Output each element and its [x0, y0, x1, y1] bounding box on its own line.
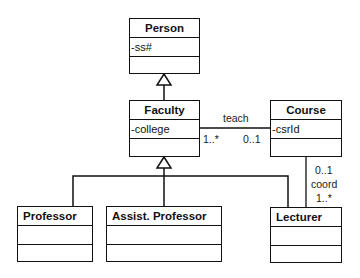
coord-lecturer-multiplicity: 1..*	[316, 192, 332, 204]
class-name: Course	[271, 101, 341, 120]
class-lecturer: Lecturer	[270, 207, 342, 263]
class-attributes	[18, 226, 92, 245]
class-professor: Professor	[17, 206, 93, 262]
class-name: Person	[130, 19, 199, 38]
class-operations	[130, 57, 199, 73]
coord-course-multiplicity: 0..1	[315, 164, 333, 176]
class-name: Lecturer	[271, 208, 341, 227]
class-attribute: -csrId	[271, 120, 341, 139]
teach-label: teach	[223, 112, 249, 124]
class-name: Professor	[18, 207, 92, 226]
coord-label: coord	[311, 178, 337, 190]
class-attributes	[107, 226, 221, 245]
teach-faculty-multiplicity: 1..*	[203, 133, 219, 145]
class-attribute: -college	[130, 120, 199, 139]
class-faculty: Faculty -college	[129, 100, 200, 157]
generalization-arrow-faculty	[157, 157, 171, 168]
class-operations	[18, 245, 92, 261]
class-operations	[107, 245, 221, 261]
class-name: Assist. Professor	[107, 207, 221, 226]
class-assist-professor: Assist. Professor	[106, 206, 222, 262]
class-attributes	[271, 227, 341, 246]
class-operations	[271, 139, 341, 156]
class-person: Person -ss#	[129, 18, 200, 74]
class-course: Course -csrId	[270, 100, 342, 157]
class-operations	[271, 246, 341, 262]
generalization-arrow-person	[157, 74, 171, 85]
class-name: Faculty	[130, 101, 199, 120]
class-attribute: -ss#	[130, 38, 199, 57]
teach-course-multiplicity: 0..1	[243, 133, 261, 145]
class-operations	[130, 139, 199, 156]
